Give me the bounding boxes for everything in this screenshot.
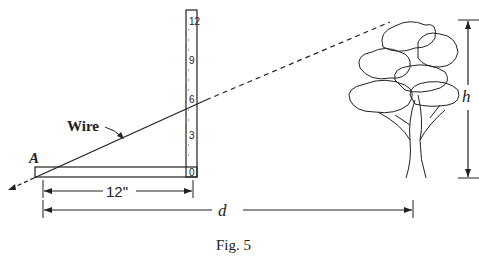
ruler-tick-3: 3	[189, 130, 195, 141]
ruler-tick-12: 12	[189, 16, 201, 27]
ruler-tick-9: 9	[189, 55, 195, 66]
wire-label: Wire	[67, 118, 99, 134]
figure-caption: Fig. 5	[216, 237, 251, 253]
wire-line	[34, 100, 206, 178]
ruler-base-label: 12"	[106, 183, 128, 200]
height-label: h	[462, 87, 471, 106]
distance-label: d	[218, 201, 227, 220]
horizontal-ruler	[35, 167, 197, 177]
ruler-tick-0: 0	[189, 167, 195, 178]
tree-illustration	[349, 22, 459, 178]
figure-diagram: 12 9 6 3 0 A Wire 12" d h Fig. 5	[0, 0, 479, 258]
sight-line	[206, 22, 390, 100]
arrowheads	[8, 21, 471, 213]
point-a-label: A	[28, 150, 39, 166]
ruler-tick-6: 6	[189, 94, 195, 105]
